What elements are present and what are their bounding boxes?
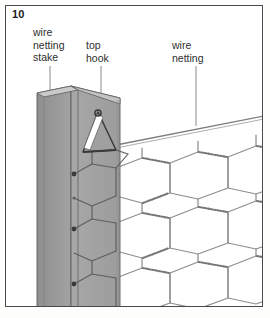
- label-top-hook: top hook: [86, 39, 109, 64]
- label-wire-netting-stake: wire netting stake: [33, 26, 65, 64]
- figure-panel: 10 wire netting stake top hook wire nett…: [0, 0, 270, 318]
- step-number: 10: [12, 9, 25, 20]
- label-wire-netting: wire netting: [172, 39, 204, 64]
